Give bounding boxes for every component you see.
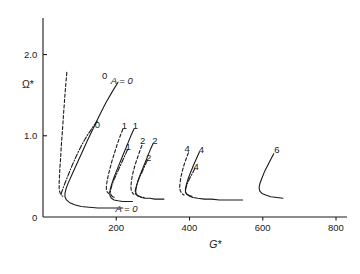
x-tick-label: 800 [328,223,344,233]
curve-annotation: 4 [199,145,204,155]
axes-group [43,18,347,221]
curve-annotation: 6 [274,145,279,155]
curve-annotation: 2 [146,153,151,163]
curve-annotation: 1 [122,121,127,131]
data-curve [59,72,67,195]
data-curve [110,129,134,201]
curve-annotation: A = 0 [111,76,133,86]
x-tick-label: 200 [108,223,124,233]
y-tick-label: 2.0 [24,50,37,60]
y-tick-label: 1.0 [24,131,37,141]
curve-annotation: 1 [125,142,130,152]
data-curve [65,82,123,208]
curve-annotation: 4 [194,162,199,172]
curve-annotation: 2 [140,136,145,146]
curve-annotation: 0 [95,120,100,130]
data-curve [180,153,189,195]
curve-annotation: 1 [133,121,138,131]
data-curve [259,154,283,199]
data-curve [185,152,242,200]
x-axis-title: G* [209,239,221,250]
curve-annotation: A = 0 [116,204,138,214]
chart-figure: 2004006008002.01.00G*Ω*0A = 00A = 011122… [0,0,360,274]
data-curve [135,160,147,197]
curve-annotation: 2 [152,136,157,146]
x-tick-label: 400 [182,223,198,233]
curve-annotation: 4 [184,144,189,154]
origin-label: 0 [32,213,37,223]
curve-annotation: 0 [102,71,107,81]
curves-group [59,72,283,208]
x-tick-label: 600 [255,223,271,233]
y-axis-title: Ω* [22,79,34,90]
plot-canvas [0,0,360,274]
